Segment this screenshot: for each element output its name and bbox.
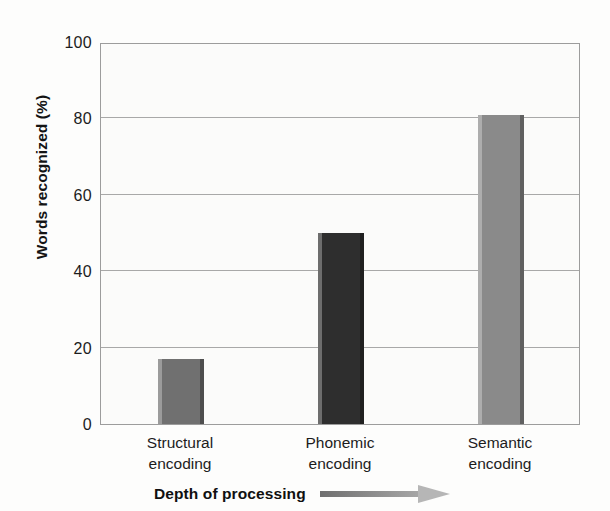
bar-structural: [158, 359, 204, 424]
x-tick-label: Structuralencoding: [110, 432, 250, 474]
arrow-shaft: [320, 491, 424, 497]
y-tick-label: 40: [34, 263, 92, 281]
x-axis-caption: Depth of processing: [154, 485, 306, 503]
x-tick-label-line: encoding: [430, 453, 570, 474]
x-tick-label-line: encoding: [110, 453, 250, 474]
x-axis-tick-labels: StructuralencodingPhonemicencodingSemant…: [100, 432, 580, 480]
y-tick-label: 20: [34, 340, 92, 358]
x-axis-caption-row: Depth of processing: [100, 479, 580, 509]
x-tick-label-line: Semantic: [468, 434, 533, 451]
bar-semantic: [478, 115, 524, 424]
x-tick-label: Semanticencoding: [430, 432, 570, 474]
x-tick-label-line: encoding: [270, 453, 410, 474]
bar-slot: [101, 44, 261, 424]
y-tick-label: 100: [34, 34, 92, 52]
chart-figure: Words recognized (%) 020406080100 Struct…: [0, 0, 610, 511]
plot-area: [100, 43, 580, 425]
y-tick-label: 0: [34, 416, 92, 434]
arrow-head: [418, 485, 450, 503]
x-tick-label: Phonemicencoding: [270, 432, 410, 474]
direction-arrow-icon: [320, 485, 460, 503]
bar-phonemic: [318, 233, 364, 424]
bar-slot: [261, 44, 421, 424]
y-tick-label: 60: [34, 187, 92, 205]
y-tick-label: 80: [34, 110, 92, 128]
y-axis-tick-labels: 020406080100: [32, 0, 92, 511]
x-tick-label-line: Structural: [147, 434, 213, 451]
x-tick-label-line: Phonemic: [306, 434, 375, 451]
bar-slot: [421, 44, 581, 424]
